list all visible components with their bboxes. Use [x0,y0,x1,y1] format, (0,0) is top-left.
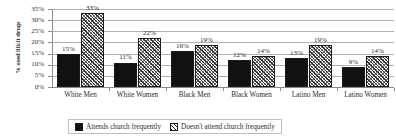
bar-group [171,9,218,87]
bar [138,38,161,87]
bar [171,51,194,87]
bar [228,60,251,87]
plot-area: 15%33%11%22%16%19%12%14%13%19%9%14% [52,9,394,87]
bar [252,56,275,87]
x-axis-category-label: Latino Women [330,91,396,100]
x-axis-tick-mark [394,88,395,91]
bar [57,54,80,87]
bar [81,13,104,87]
bar-chart: % used illicit drugs 35%30%25%20%15%10%5… [0,0,396,140]
y-axis-tick-label: 10% [14,61,44,68]
legend-entry: Doesn't attend church frequently [170,123,275,131]
y-axis-tick-label: 25% [14,28,44,35]
legend-swatch-hatched-icon [170,123,178,131]
legend-label: Doesn't attend church frequently [181,123,275,131]
legend-entry: Attends church frequently [75,123,161,131]
bar [366,56,389,87]
legend-label: Attends church frequently [86,123,161,131]
y-axis-tick-label: 15% [14,50,44,57]
bar-group [285,9,332,87]
bar-group [57,9,104,87]
bar [309,45,332,87]
bar-group [114,9,161,87]
y-axis-tick-label: 0% [14,84,44,91]
bar [195,45,218,87]
bar [342,67,365,87]
y-axis-title: % used illicit drugs [14,0,21,96]
bar [285,58,308,87]
y-axis-tick-label: 5% [14,72,44,79]
bar-group [228,9,275,87]
legend-swatch-solid-icon [75,123,83,131]
y-axis-tick-label: 35% [14,6,44,13]
bar-group [342,9,389,87]
y-axis-tick-label: 20% [14,39,44,46]
y-axis-tick-label: 30% [14,17,44,24]
bar [114,63,137,88]
chart-legend: Attends church frequentlyDoesn't attend … [68,119,282,134]
